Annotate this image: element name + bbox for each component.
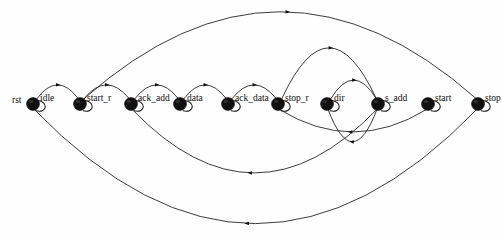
state-node-circle-stop_r [272,98,285,111]
state-node-ack_add[interactable] [125,98,138,111]
state-node-data[interactable] [174,98,187,111]
state-node-highlight-s_add [374,100,378,103]
state-node-highlight-dir [323,100,327,103]
state-node-idle[interactable] [27,98,40,111]
state-node-highlight-start_r [76,100,80,103]
state-node-circle-stop [472,98,485,111]
state-node-stop_r[interactable] [272,98,285,111]
state-label-s_add: s_add [385,93,407,103]
state-node-circle-dir [321,98,334,111]
fsm-diagram: idlestart_rack_adddataack_datastop_rdirs… [0,0,502,237]
state-node-start[interactable] [422,98,435,111]
state-node-highlight-ack_add [127,100,131,103]
state-label-start_r: start_r [87,93,112,103]
state-node-circle-idle [27,98,40,111]
state-label-ack_add: ack_add [138,93,170,103]
arrowhead-ack_add-to-data [155,83,160,87]
arrowhead-data-to-ack_data [203,83,208,87]
state-node-circle-data [174,98,187,111]
state-node-highlight-start [424,100,428,103]
arrowhead-dir-to-s_add [352,78,357,82]
arrowhead-start_r-to-ack_add [105,83,110,87]
state-node-circle-ack_data [222,98,235,111]
edge-stop-to-idle [34,109,477,223]
state-node-circle-ack_add [125,98,138,111]
arrowhead-s_add-to-dir [349,140,354,144]
arrowhead-idle-to-start_r [56,83,61,87]
edge-s_add-to-ack_add [132,109,377,173]
state-label-start: start [435,93,452,103]
state-label-idle: idle [40,93,54,103]
state-node-highlight-idle [29,100,33,103]
state-node-circle-start [422,98,435,111]
arrowhead-s_add-to-ack_add [247,171,252,175]
state-node-s_add[interactable] [372,98,385,111]
fsm-canvas: idlestart_rack_adddataack_datastop_rdirs… [0,0,502,237]
state-label-dir: dir [334,93,345,103]
arrowhead-ack_data-to-stop_r [252,83,257,87]
arrowhead-stop-to-idle [244,222,249,226]
state-node-highlight-ack_data [224,100,228,103]
edge-start_r-to-stop [84,12,477,99]
state-label-stop: stop [485,93,501,103]
state-label-data: data [187,93,204,103]
edge-stop_r-to-s_add [282,48,377,99]
arrowhead-start_r-to-stop [285,10,290,14]
state-node-circle-start_r [74,98,87,111]
state-node-stop[interactable] [472,98,485,111]
edges-layer [34,10,477,225]
state-node-start_r[interactable] [74,98,87,111]
state-label-stop_r: stop_r [285,93,310,103]
state-node-highlight-data [176,100,180,103]
edge-s_add-to-dir [328,109,377,142]
entry-point-label: rst [12,95,22,105]
state-node-highlight-stop [474,100,478,103]
state-node-dir[interactable] [321,98,334,111]
state-node-highlight-stop_r [274,100,278,103]
state-label-ack_data: ack_data [235,93,270,103]
edge-start-to-stop_r [279,109,427,132]
state-node-ack_data[interactable] [222,98,235,111]
state-node-circle-s_add [372,98,385,111]
